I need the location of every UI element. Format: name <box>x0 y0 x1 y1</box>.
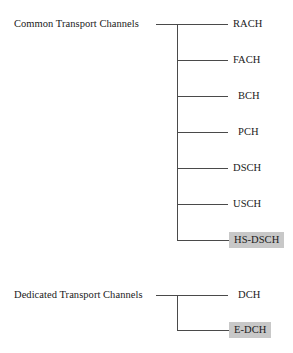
connector-stem-common <box>156 24 177 25</box>
connector-branch-fach <box>177 60 228 61</box>
group-label-common-transport-channels: Common Transport Channels <box>14 18 139 30</box>
group-label-dedicated-transport-channels: Dedicated Transport Channels <box>14 289 143 301</box>
connector-trunk-dedicated <box>177 295 178 331</box>
transport-channels-diagram: Common Transport Channels RACH FACH BCH … <box>0 0 293 353</box>
connector-branch-pch <box>177 132 228 133</box>
leaf-label-bch: BCH <box>238 90 260 102</box>
leaf-label-fach: FACH <box>233 54 260 66</box>
connector-branch-hs-dsch <box>177 240 229 241</box>
connector-branch-usch <box>177 204 228 205</box>
leaf-label-usch: USCH <box>233 198 261 210</box>
leaf-label-dsch: DSCH <box>233 162 261 174</box>
connector-branch-bch <box>177 96 228 97</box>
connector-stem-dedicated <box>156 295 177 296</box>
leaf-label-rach: RACH <box>233 18 262 30</box>
leaf-label-e-dch: E-DCH <box>229 322 271 338</box>
connector-branch-dsch <box>177 168 228 169</box>
leaf-label-dch: DCH <box>238 289 260 301</box>
leaf-label-hs-dsch: HS-DSCH <box>229 232 284 248</box>
connector-branch-e-dch <box>177 330 229 331</box>
connector-branch-dch <box>177 295 228 296</box>
connector-branch-rach <box>177 24 228 25</box>
leaf-label-pch: PCH <box>238 126 259 138</box>
